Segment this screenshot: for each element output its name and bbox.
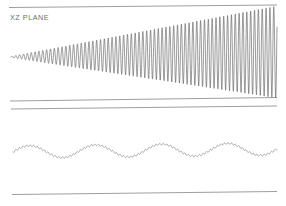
waveform-figure: XZ PLANE YZ PLANE (0, 0, 286, 206)
panel-xz-plane: XZ PLANE (0, 0, 286, 103)
panel-yz-plane: YZ PLANE (0, 103, 286, 206)
panel-label-xz: XZ PLANE (10, 14, 49, 21)
